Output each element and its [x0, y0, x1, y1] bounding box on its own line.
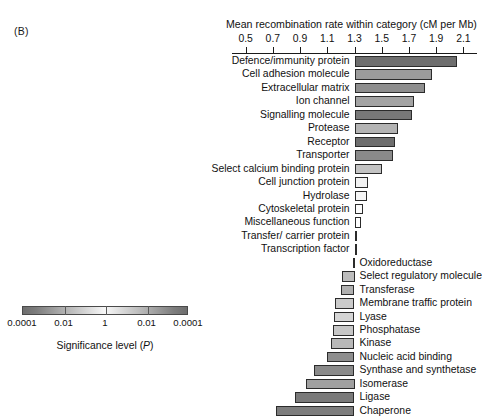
category-label: Transporter: [296, 148, 349, 161]
category-label: Transfer/ carrier protein: [241, 229, 349, 242]
bar[interactable]: [314, 365, 355, 376]
category-label: Synthase and synthetase: [360, 363, 477, 376]
category-label: Chaperone: [360, 404, 411, 417]
category-label: Oxidoreductase: [360, 256, 433, 269]
axis-tick-mark: [409, 47, 410, 53]
axis-tick-mark: [436, 47, 437, 53]
bar[interactable]: [355, 164, 382, 175]
category-label: Miscellaneous function: [244, 215, 349, 228]
axis-tick-mark: [273, 47, 274, 53]
axis-tick-mark: [246, 47, 247, 53]
panel-label: (B): [14, 25, 29, 37]
chart-row: Select regulatory molecule: [0, 270, 481, 283]
category-label: Defence/immunity protein: [232, 54, 350, 67]
bar[interactable]: [335, 298, 354, 309]
colorbar-tick-mark: [148, 306, 149, 315]
category-label: Phosphatase: [360, 323, 421, 336]
bar[interactable]: [355, 137, 396, 148]
bar-chart-plot-area: Defence/immunity proteinCell adhesion mo…: [0, 55, 481, 405]
significance-colorbar-legend: 0.00010.0110.010.0001: [22, 306, 188, 331]
category-label: Hydrolase: [303, 189, 350, 202]
bar[interactable]: [355, 204, 363, 215]
colorbar-tick-label: 0.01: [54, 317, 73, 328]
bar[interactable]: [353, 258, 355, 269]
chart-row: Transfer/ carrier protein: [0, 230, 481, 243]
bar[interactable]: [355, 231, 357, 242]
bar[interactable]: [295, 392, 355, 403]
bar[interactable]: [333, 325, 355, 336]
bar[interactable]: [355, 244, 357, 255]
axis-tick-labels: 0.50.70.91.11.31.51.71.92.1: [226, 33, 476, 46]
axis-tick-label: 0.5: [238, 33, 252, 44]
bar[interactable]: [331, 338, 354, 349]
category-label: Cell junction protein: [258, 175, 349, 188]
axis-tick-label: 0.9: [293, 33, 307, 44]
chart-row: Cytoskeletal protein: [0, 203, 481, 216]
chart-row: Protease: [0, 122, 481, 135]
colorbar-tick-labels: 0.00010.0110.010.0001: [22, 317, 188, 331]
colorbar-gradient: [22, 306, 188, 315]
chart-row: Miscellaneous function: [0, 216, 481, 229]
bar[interactable]: [327, 352, 354, 363]
bar[interactable]: [342, 271, 354, 282]
axis-tick-label: 2.1: [456, 33, 470, 44]
category-label: Protease: [308, 121, 350, 134]
category-label: Select regulatory molecule: [360, 269, 482, 282]
legend-caption: Significance level (P): [22, 340, 188, 351]
bar[interactable]: [355, 69, 433, 80]
axis-tick-label: 1.1: [320, 33, 334, 44]
bar[interactable]: [355, 191, 367, 202]
bar[interactable]: [355, 177, 369, 188]
chart-row: Hydrolase: [0, 190, 481, 203]
chart-row: Receptor: [0, 136, 481, 149]
chart-row: Isomerase: [0, 378, 481, 391]
category-label: Cytoskeletal protein: [258, 202, 349, 215]
bar[interactable]: [334, 312, 354, 323]
category-label: Kinase: [360, 336, 392, 349]
chart-row: Nucleic acid binding: [0, 351, 481, 364]
bar[interactable]: [355, 123, 399, 134]
colorbar-tick-mark: [65, 306, 66, 315]
category-label: Isomerase: [360, 377, 409, 390]
bar[interactable]: [276, 406, 355, 417]
chart-row: Chaperone: [0, 405, 481, 418]
axis-tick-mark: [327, 47, 328, 53]
axis-tick-label: 1.5: [374, 33, 388, 44]
category-label: Extracellular matrix: [261, 81, 349, 94]
axis-tick-mark: [300, 47, 301, 53]
axis-tick-mark: [355, 47, 356, 53]
legend-caption-suffix: ): [150, 340, 153, 351]
category-label: Membrane traffic protein: [360, 296, 472, 309]
colorbar-tick-label: 0.0001: [173, 317, 202, 328]
colorbar-tick-mark: [106, 306, 107, 315]
bar[interactable]: [355, 56, 457, 67]
category-label: Lyase: [360, 310, 387, 323]
chart-row: Transferase: [0, 284, 481, 297]
bar[interactable]: [355, 150, 393, 161]
bar[interactable]: [341, 285, 355, 296]
category-label: Ion channel: [296, 94, 350, 107]
bar[interactable]: [355, 96, 415, 107]
bar[interactable]: [306, 379, 355, 390]
bar[interactable]: [355, 83, 426, 94]
colorbar-tick-label: 0.01: [137, 317, 156, 328]
axis-tick-label: 1.7: [402, 33, 416, 44]
legend-caption-prefix: Significance level (: [56, 340, 143, 351]
chart-row: Ligase: [0, 391, 481, 404]
axis-tick-mark: [382, 47, 383, 53]
axis-tick-mark: [463, 47, 464, 53]
colorbar-tick-label: 1: [102, 317, 107, 328]
bar[interactable]: [355, 110, 412, 121]
chart-row: Defence/immunity protein: [0, 55, 481, 68]
category-label: Cell adhesion molecule: [242, 67, 349, 80]
bar[interactable]: [355, 217, 362, 228]
category-label: Ligase: [360, 390, 391, 403]
chart-row: Cell adhesion molecule: [0, 68, 481, 81]
axis-tick-label: 1.3: [347, 33, 361, 44]
axis-tick-label: 1.9: [429, 33, 443, 44]
category-label: Select calcium binding protein: [211, 162, 349, 175]
category-label: Transcription factor: [261, 242, 350, 255]
category-label: Receptor: [307, 135, 349, 148]
axis-tick-label: 0.7: [266, 33, 280, 44]
chart-row: Signalling molecule: [0, 109, 481, 122]
